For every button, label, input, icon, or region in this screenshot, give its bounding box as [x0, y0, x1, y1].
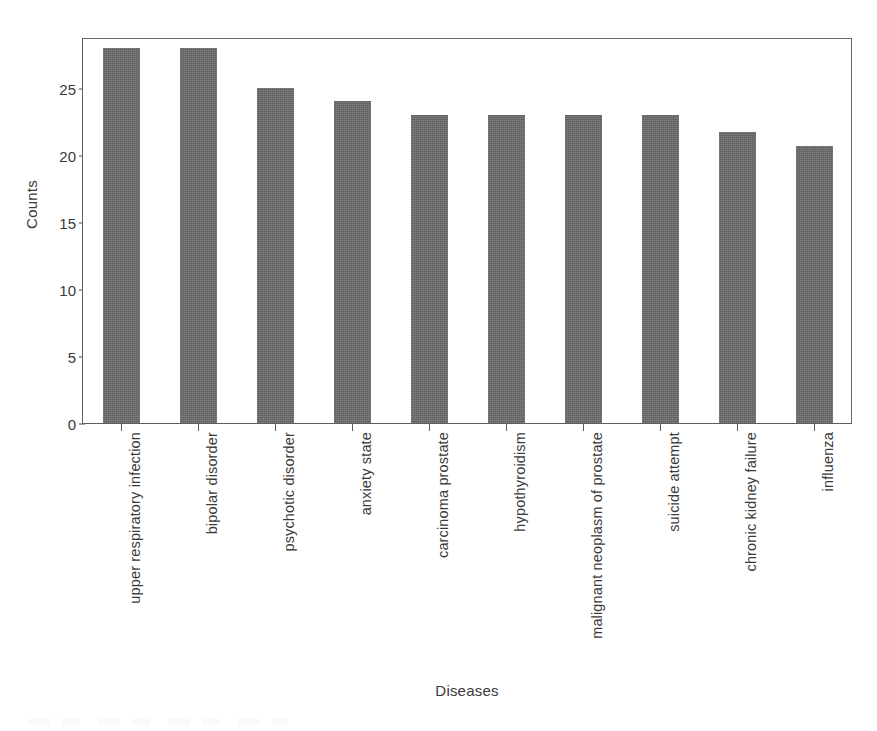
bar: [796, 146, 833, 423]
y-axis-ticks: 0510152025: [42, 38, 76, 424]
bar: [103, 48, 140, 423]
bar: [180, 48, 217, 423]
x-tick-mark: [198, 424, 199, 431]
bar-chart-figure: Counts 0510152025 upper respiratory infe…: [0, 0, 877, 731]
x-tick-mark: [660, 424, 661, 431]
x-tick-mark: [429, 424, 430, 431]
x-tick-mark: [583, 424, 584, 431]
x-tick-mark: [352, 424, 353, 431]
bar: [719, 132, 756, 423]
y-tick-label: 0: [42, 416, 76, 433]
bar: [565, 115, 602, 423]
x-axis-category-labels: upper respiratory infectionbipolar disor…: [82, 432, 852, 657]
x-category-label: hypothyroidism: [512, 432, 528, 532]
y-tick-label: 5: [42, 348, 76, 365]
x-category-label: carcinoma prostate: [435, 432, 451, 558]
x-tick-mark: [275, 424, 276, 431]
bar: [488, 115, 525, 423]
x-category-label: upper respiratory infection: [127, 432, 143, 604]
bar: [334, 101, 371, 423]
x-category-label: chronic kidney failure: [743, 432, 759, 572]
bar: [257, 88, 294, 423]
x-tick-mark: [814, 424, 815, 431]
x-tick-mark: [121, 424, 122, 431]
x-category-label: bipolar disorder: [204, 432, 220, 534]
x-category-label: malignant neoplasm of prostate: [589, 432, 605, 639]
plot-area: [83, 39, 851, 423]
plot-frame: [82, 38, 852, 424]
scan-artifact: [28, 718, 288, 725]
bar: [411, 115, 448, 423]
x-axis-title: Diseases: [82, 682, 852, 699]
x-tick-mark: [506, 424, 507, 431]
y-tick-label: 25: [42, 80, 76, 97]
x-axis-tick-marks: [82, 424, 852, 432]
y-tick-label: 15: [42, 214, 76, 231]
bar: [642, 115, 679, 423]
y-tick-label: 20: [42, 147, 76, 164]
x-category-label: suicide attempt: [666, 432, 682, 532]
x-tick-mark: [737, 424, 738, 431]
x-category-label: influenza: [820, 432, 836, 491]
x-category-label: psychotic disorder: [281, 432, 297, 552]
y-axis-title: Counts: [23, 160, 40, 250]
x-category-label: anxiety state: [358, 432, 374, 515]
y-tick-label: 10: [42, 281, 76, 298]
